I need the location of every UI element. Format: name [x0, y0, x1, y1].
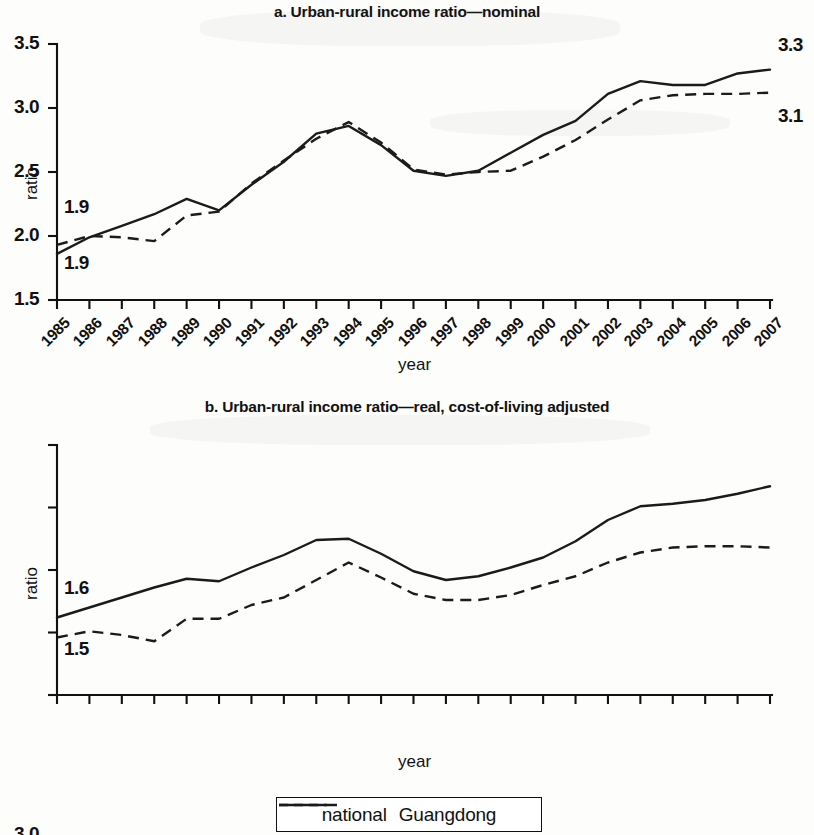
y-tick-label: 3.0	[0, 823, 39, 835]
panel-b-series-national	[57, 486, 770, 617]
figure-legend: national Guangdong	[276, 797, 542, 832]
panel-a-x-ticks	[57, 300, 770, 309]
panel-b-axes	[48, 445, 772, 704]
y-tick-label: 1.5	[0, 288, 39, 310]
legend-entry-guangdong: Guangdong	[399, 804, 497, 826]
panel-a-series-national	[57, 70, 770, 254]
y-tick-label: 3.5	[0, 32, 39, 54]
panel-a-series-guangdong	[57, 93, 770, 245]
legend-label-guangdong: Guangdong	[399, 804, 497, 826]
legend-entry-national: national	[322, 804, 387, 826]
panel-a-x-axis-title: year	[398, 355, 431, 375]
panel-b-series-guangdong	[57, 546, 770, 641]
chart-panel-b: b. Urban-rural income ratio—real, cost-o…	[0, 390, 814, 790]
panel-b-national-start-label: 1.6	[64, 577, 89, 599]
panel-a-national-start-label: 1.9	[64, 196, 89, 218]
panel-b-x-axis-title: year	[398, 752, 431, 772]
legend-dashed-line-icon	[277, 798, 329, 812]
panel-a-national-end-label: 3.3	[778, 34, 803, 56]
panel-b-y-ticks	[48, 445, 57, 695]
panel-a-guangdong-end-label: 3.1	[778, 105, 803, 127]
y-tick-label: 2.0	[0, 224, 39, 246]
chart-panel-a: a. Urban-rural income ratio—nominal 1.52…	[0, 0, 814, 390]
y-tick-label: 3.0	[0, 96, 39, 118]
panel-a-y-ticks	[48, 44, 57, 300]
panel-b-guangdong-start-label: 1.5	[64, 638, 89, 660]
panel-b-y-axis-title: ratio	[22, 567, 42, 600]
panel-b-x-ticks	[57, 695, 770, 704]
panel-a-guangdong-start-label: 1.9	[64, 252, 89, 274]
panel-b-plot	[0, 390, 814, 790]
panel-a-y-axis-title: ratio	[22, 167, 42, 200]
